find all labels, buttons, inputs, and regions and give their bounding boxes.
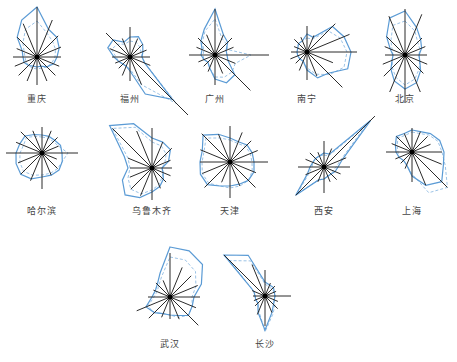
spoke-SW xyxy=(205,162,231,188)
center-dot xyxy=(213,53,218,58)
city-label: 武汉 xyxy=(160,337,180,350)
city-label: 重庆 xyxy=(27,92,47,105)
wind-rose-8 xyxy=(296,116,375,195)
wind-rose-2 xyxy=(189,9,269,90)
spoke-SE xyxy=(130,57,188,115)
spoke-SW xyxy=(131,168,152,189)
spoke-SE xyxy=(170,297,198,325)
center-dot xyxy=(168,295,173,300)
spoke-NE xyxy=(170,276,191,297)
spoke-NW xyxy=(156,283,170,297)
wind-rose-4 xyxy=(383,9,427,103)
center-dot xyxy=(128,55,133,60)
spoke-SE xyxy=(412,152,447,187)
solid-series-polygon xyxy=(146,247,203,316)
city-label: 天津 xyxy=(220,204,240,217)
center-dot xyxy=(322,165,327,170)
spoke-NE xyxy=(307,24,335,52)
spoke-NW xyxy=(294,39,307,52)
city-label: 上海 xyxy=(402,204,422,217)
city-label: 广州 xyxy=(205,92,225,105)
wind-rose-grid xyxy=(0,0,457,362)
center-dot xyxy=(35,55,40,60)
center-dot xyxy=(40,151,45,156)
spoke-NE xyxy=(324,116,375,167)
center-dot xyxy=(410,150,415,155)
spoke-SE xyxy=(215,55,250,90)
city-label: 哈尔滨 xyxy=(27,204,57,217)
wind-rose-6 xyxy=(110,124,172,200)
spoke-SE xyxy=(42,153,58,169)
center-dot xyxy=(228,160,233,165)
spoke-SE xyxy=(152,168,166,182)
dashed-series-polygon xyxy=(20,136,68,175)
spoke-NE xyxy=(215,38,232,55)
spoke-NE xyxy=(37,36,58,57)
city-label: 南宁 xyxy=(297,92,317,105)
spoke-NE xyxy=(230,141,251,162)
city-label: 西安 xyxy=(314,204,334,217)
spoke-SW xyxy=(21,153,42,174)
city-label: 乌鲁木齐 xyxy=(132,204,172,217)
wind-rose-10 xyxy=(137,247,203,325)
spoke-NW xyxy=(396,136,412,152)
spoke-NW xyxy=(17,37,37,57)
wind-rose-1 xyxy=(106,27,188,115)
spoke-NW xyxy=(198,38,215,55)
wind-rose-7 xyxy=(200,126,268,198)
wind-rose-5 xyxy=(6,127,78,189)
dashed-series-polygon xyxy=(148,257,196,317)
center-dot xyxy=(403,53,408,58)
spoke-NE xyxy=(42,137,58,153)
city-label: 北京 xyxy=(395,92,415,105)
center-dot xyxy=(150,166,155,171)
city-label: 长沙 xyxy=(255,337,275,350)
wind-rose-0 xyxy=(13,7,61,85)
center-dot xyxy=(263,294,268,299)
city-label: 福州 xyxy=(120,92,140,105)
spoke-SE xyxy=(265,296,278,309)
spoke-NW xyxy=(112,128,152,168)
spoke-SE xyxy=(307,52,342,87)
wind-rose-3 xyxy=(290,24,357,88)
center-dot xyxy=(305,50,310,55)
wind-rose-11 xyxy=(224,255,291,332)
solid-series-polygon xyxy=(224,255,275,330)
spoke-NE xyxy=(412,136,428,152)
wind-rose-9 xyxy=(386,128,447,193)
